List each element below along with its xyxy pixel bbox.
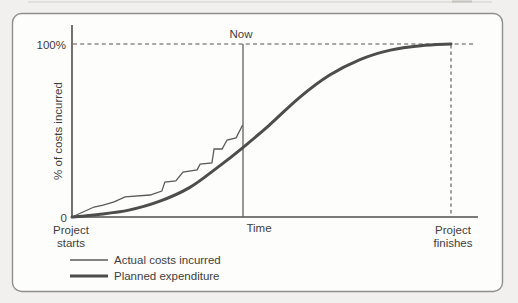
project-starts-label-line2: starts: [57, 237, 85, 249]
y-tick-100: 100%: [37, 39, 66, 51]
x-axis-title: Time: [246, 222, 271, 234]
project-starts-label-line1: Project: [53, 224, 90, 236]
now-label: Now: [229, 28, 253, 40]
project-finishes-label-line1: Project: [435, 224, 472, 236]
legend-label-actual: Actual costs incurred: [114, 254, 221, 266]
legend-label-planned: Planned expenditure: [114, 270, 220, 282]
y-tick-0: 0: [61, 212, 67, 224]
cost-curve-chart: 100% 0 % of costs incurred Now Time Proj…: [0, 0, 518, 303]
figure-frame: [13, 14, 503, 292]
y-axis-title: % of costs incurred: [52, 82, 64, 180]
project-finishes-label-line2: finishes: [434, 237, 473, 249]
figure-container: 100% 0 % of costs incurred Now Time Proj…: [0, 0, 518, 303]
